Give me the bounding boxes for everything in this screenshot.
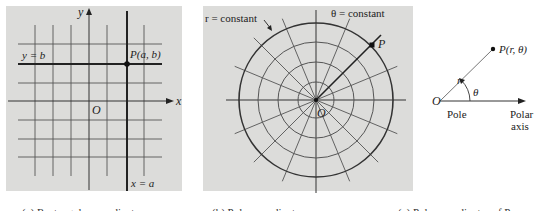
polar-axis-label-2: axis — [511, 120, 529, 132]
theta-angle-arc-icon — [461, 80, 470, 101]
point-p-r-theta — [491, 47, 495, 51]
x-axis-label: x — [175, 94, 182, 108]
point-p-label: P — [377, 37, 386, 51]
r-constant-label-text: r = constant — [205, 12, 257, 24]
caption-c: (c) Polar coordinates of P — [398, 206, 510, 211]
theta-constant-label: θ = constant — [331, 7, 385, 19]
y-equals-b-label: y = b — [21, 49, 46, 61]
r-label: r — [457, 74, 462, 86]
caption-a: (a) Rectangular coordinates — [22, 206, 144, 211]
polar-axis-arrow-icon — [518, 98, 526, 104]
pole-label: Pole — [447, 108, 467, 120]
rectangular-axes — [8, 12, 170, 190]
origin-dot — [314, 98, 318, 102]
theta-label: θ — [473, 86, 479, 98]
origin-label-b: O — [317, 106, 326, 120]
radius-line — [440, 49, 493, 101]
origin-label-a: O — [92, 103, 101, 117]
point-p — [370, 43, 375, 48]
point-p-a-b — [124, 61, 130, 67]
x-equals-a-label: x = a — [130, 177, 155, 189]
caption-b: (b) Polar coordinates — [212, 206, 304, 211]
coordinates-figure: y x O y = b P(a, b) x = a r = constant θ… — [0, 0, 556, 211]
point-p-r-theta-label: P(r, θ) — [498, 43, 527, 56]
origin-label-c: O — [432, 94, 441, 108]
y-axis-label: y — [77, 5, 84, 19]
point-p-a-b-label: P(a, b) — [129, 48, 161, 61]
x-axis-arrow-icon — [166, 98, 174, 104]
y-axis-arrow-icon — [86, 8, 92, 15]
polar-axis-label-1: Polar — [510, 108, 534, 120]
